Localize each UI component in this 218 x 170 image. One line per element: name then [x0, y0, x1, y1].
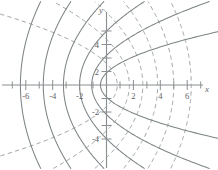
x-axis-label: x [205, 85, 209, 94]
plot-canvas: -6 -4 -2 2 4 6 4 2 -2 -4 [0, 0, 218, 170]
xtick-label-4: 4 [158, 91, 163, 101]
ytick-label-neg4: -4 [92, 134, 100, 144]
ytick-label-2: 2 [95, 67, 99, 77]
parabola-plot-figure: -6 -4 -2 2 4 6 4 2 -2 -4 x y [0, 0, 218, 170]
xtick-label-neg2: -2 [76, 91, 83, 101]
ytick-label-neg2: -2 [92, 107, 99, 117]
ytick-label-4: 4 [95, 40, 100, 50]
xtick-label-neg6: -6 [22, 91, 29, 101]
y-axis-label: y [99, 6, 103, 15]
xtick-label-neg4: -4 [49, 91, 57, 101]
xtick-label-6: 6 [185, 91, 189, 101]
xtick-label-2: 2 [131, 91, 135, 101]
